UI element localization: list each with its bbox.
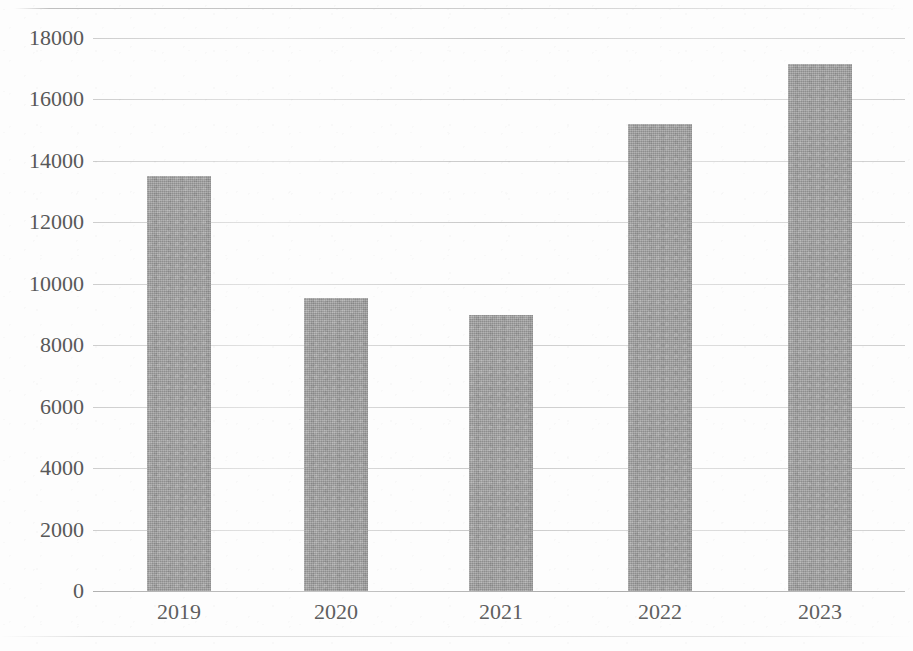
x-tick-label: 2019 <box>119 601 239 623</box>
x-axis: 20192020202120222023 <box>0 0 913 651</box>
x-tick-label: 2022 <box>600 601 720 623</box>
x-tick-label: 2020 <box>276 601 396 623</box>
x-tick-label: 2023 <box>760 601 880 623</box>
x-tick-label: 2021 <box>441 601 561 623</box>
bar-chart-figure: 0200040006000800010000120001400016000180… <box>0 0 913 651</box>
